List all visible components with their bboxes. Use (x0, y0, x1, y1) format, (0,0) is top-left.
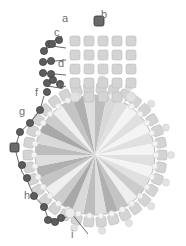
dark-bead (16, 128, 23, 135)
round-bead (31, 152, 37, 158)
label-b: b (101, 8, 107, 20)
dark-bead (26, 119, 33, 126)
round-bead (137, 193, 143, 199)
cube-bead (98, 92, 108, 102)
dark-bead (43, 88, 50, 95)
cube-bead (84, 64, 94, 74)
label-d: d (58, 57, 64, 69)
outer-round-bead (98, 227, 105, 234)
outer-round-bead (162, 124, 169, 131)
cube-bead (84, 50, 94, 60)
label-i: i (71, 228, 73, 240)
outer-round-bead (162, 179, 169, 186)
cube-bead (126, 78, 136, 88)
round-bead (47, 193, 53, 199)
cube-bead (70, 36, 80, 46)
dark-bead (40, 47, 47, 54)
round-bead (144, 184, 150, 190)
round-bead (126, 92, 136, 102)
cube-bead (126, 64, 136, 74)
round-bead (119, 207, 125, 213)
label-g: g (19, 105, 25, 117)
round-bead (153, 152, 159, 158)
cube-bead (112, 78, 122, 88)
round-bead (144, 120, 150, 126)
cube-bead (112, 50, 122, 60)
dark-bead (49, 76, 56, 83)
cube-bead (84, 78, 94, 88)
round-bead (65, 208, 75, 218)
dark-bead (48, 40, 55, 47)
outer-round-bead (125, 219, 132, 226)
round-bead (32, 141, 38, 147)
dark-bead (40, 203, 47, 210)
cube-bead (98, 78, 108, 88)
dark-bead (30, 192, 37, 199)
cube-bead (112, 64, 122, 74)
round-bead (129, 103, 135, 109)
dark-bead (18, 161, 25, 168)
cube-bead (84, 36, 94, 46)
round-bead (70, 92, 80, 102)
cube-bead (98, 50, 108, 60)
cube-bead (84, 92, 94, 102)
cube-bead (126, 50, 136, 60)
label-f: f (35, 86, 39, 98)
cube-bead (98, 64, 108, 74)
label-h: h (24, 189, 30, 201)
cube-bead (112, 36, 122, 46)
dark-bead (44, 216, 51, 223)
dark-bead (57, 214, 64, 221)
label-c: c (54, 26, 60, 38)
label-a: a (62, 12, 69, 24)
dark-bead (39, 69, 46, 76)
dark-bead (39, 58, 46, 65)
outer-round-bead (167, 151, 174, 158)
round-bead (75, 211, 81, 217)
dark-cube-bead (10, 143, 19, 152)
outer-round-bead (148, 100, 155, 107)
dark-bead (47, 57, 54, 64)
cube-bead (70, 50, 80, 60)
round-bead (47, 111, 53, 117)
cube-bead (98, 36, 108, 46)
round-bead (98, 213, 104, 219)
dark-bead (23, 174, 30, 181)
beading-diagram: a b c d e f g h i (0, 0, 186, 246)
round-bead (40, 184, 46, 190)
round-bead (137, 111, 143, 117)
round-bead (55, 103, 61, 109)
round-bead (40, 120, 46, 126)
round-bead (152, 163, 158, 169)
cube-bead (70, 64, 80, 74)
round-bead (152, 141, 158, 147)
round-bead (32, 163, 38, 169)
round-bead (86, 213, 92, 219)
round-bead (149, 174, 155, 180)
round-bead (129, 201, 135, 207)
round-bead (55, 201, 61, 207)
round-bead (35, 174, 41, 180)
cube-bead (112, 92, 122, 102)
cube-bead (70, 78, 80, 88)
cube-bead (126, 36, 136, 46)
round-bead (149, 130, 155, 136)
round-bead (35, 130, 41, 136)
label-e: e (58, 79, 64, 91)
outer-round-bead (148, 203, 155, 210)
round-bead (109, 211, 115, 217)
dark-bead (36, 106, 43, 113)
